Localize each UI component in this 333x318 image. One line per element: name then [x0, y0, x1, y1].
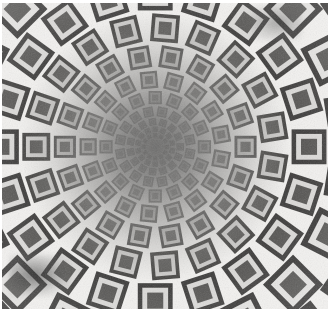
artwork-page [0, 0, 333, 318]
pattern-plate [2, 3, 328, 309]
tunnel-illusion-canvas [2, 3, 328, 309]
caption [0, 309, 333, 318]
